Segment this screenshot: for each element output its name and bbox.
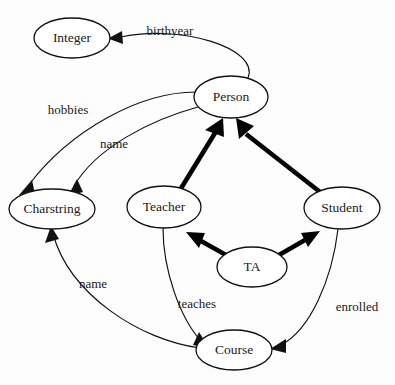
node-charstring-label: Charstring <box>24 201 81 216</box>
node-course[interactable]: Course <box>196 330 272 370</box>
diagram-nodes: Integer Person Charstring Teacher Studen… <box>9 18 380 370</box>
uml-diagram-canvas: Integer Person Charstring Teacher Studen… <box>0 0 395 385</box>
edge-name-person-path <box>74 107 198 186</box>
edge-label-enrolled: enrolled <box>336 299 379 314</box>
node-ta[interactable]: TA <box>217 247 287 287</box>
edge-birthyear-path <box>121 33 249 78</box>
edge-name-course-path <box>53 234 200 348</box>
edge-label-teaches: teaches <box>178 296 216 311</box>
node-integer-label: Integer <box>53 30 92 45</box>
node-course-label: Course <box>215 342 253 357</box>
edge-student-person-line <box>246 134 320 192</box>
edge-ta-teacher-line <box>201 241 226 255</box>
node-ta-label: TA <box>244 259 261 274</box>
edge-label-hobbies: hobbies <box>48 102 88 117</box>
node-student-label: Student <box>321 200 363 215</box>
edge-teaches-path <box>163 228 201 341</box>
node-student[interactable]: Student <box>304 187 380 229</box>
diagram-svg: Integer Person Charstring Teacher Studen… <box>0 0 395 385</box>
edge-teacher-person-line <box>180 133 215 190</box>
node-teacher[interactable]: Teacher <box>127 186 201 228</box>
node-person-label: Person <box>213 89 250 104</box>
edge-label-name-course: name <box>79 276 107 291</box>
edge-ta-student-line <box>279 240 305 255</box>
node-integer[interactable]: Integer <box>34 18 110 58</box>
node-charstring[interactable]: Charstring <box>9 189 95 229</box>
edge-label-birthyear: birthyear <box>147 23 195 38</box>
node-person[interactable]: Person <box>194 76 268 118</box>
inheritance-edges <box>180 118 320 255</box>
node-teacher-label: Teacher <box>143 199 186 214</box>
edge-ta-teacher-arrowhead <box>186 232 205 248</box>
edge-label-name-person: name <box>100 136 128 151</box>
